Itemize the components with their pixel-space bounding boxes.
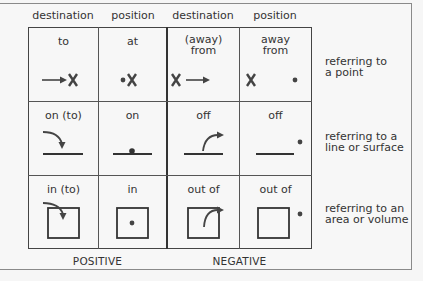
cell-away-from-destination: (away) from [168, 28, 239, 101]
arrow-to-x-icon [29, 28, 98, 101]
box-dot-outside-icon [240, 176, 311, 248]
dot-on-line-icon [99, 102, 166, 175]
curved-arrow-onto-line-icon [29, 102, 98, 175]
curved-arrow-out-of-box-icon [168, 176, 239, 248]
row-label-area-volume: referring to an area or volume [325, 203, 409, 225]
column-header-destination-negative: destination [158, 9, 248, 22]
negative-label: NEGATIVE [167, 255, 312, 267]
cell-away-from-position: away from [240, 28, 311, 101]
row-label-point: referring to a point [325, 56, 387, 78]
cell-in-to: in (to) [29, 176, 98, 248]
cell-out-of-position: out of [240, 176, 311, 248]
cell-on-to: on (to) [29, 102, 98, 175]
column-header-position-negative: position [239, 9, 311, 22]
cell-to: to [29, 28, 98, 101]
x-arrow-away-icon [168, 28, 239, 101]
positive-label: POSITIVE [28, 255, 167, 267]
cell-off-position: off [240, 102, 311, 175]
cell-at: at [99, 28, 166, 101]
cell-off-destination: off [168, 102, 239, 175]
cell-out-of-destination: out of [168, 176, 239, 248]
row-label-line-surface: referring to a line or surface [325, 131, 404, 153]
cell-on: on [99, 102, 166, 175]
curved-arrow-into-box-icon [29, 176, 98, 248]
dot-in-box-icon [99, 176, 166, 248]
cell-in: in [99, 176, 166, 248]
x-dot-apart-icon [240, 28, 311, 101]
curved-arrow-off-line-icon [168, 102, 239, 175]
dot-at-x-icon [99, 28, 166, 101]
line-dot-off-icon [240, 102, 311, 175]
